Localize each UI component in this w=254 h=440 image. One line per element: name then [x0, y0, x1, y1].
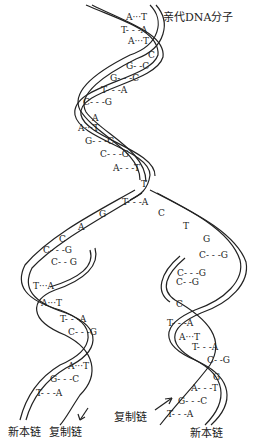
base-pair-label: A [78, 222, 85, 232]
base-pair-label: C- - -G [199, 250, 228, 260]
base-pair-label: T [141, 179, 147, 189]
base-pair-label: A···T [68, 361, 89, 371]
parent-dna-title: 亲代DNA分子 [163, 8, 233, 24]
base-pair-label: G- - -C [110, 73, 139, 83]
base-pair-label: G- - -C [85, 136, 114, 146]
base-pair-label: T [183, 221, 189, 231]
base-pair-label: G- - -C [178, 396, 207, 406]
base-pair-label: T- - -A [36, 388, 62, 398]
base-pair-label: C- - -G [68, 327, 97, 337]
base-pair-label: A···T [78, 123, 99, 133]
base-pair-label: G [99, 209, 106, 219]
base-pair-label: C- - G [51, 257, 77, 267]
base-pair-label: T···A [33, 281, 54, 291]
base-pair-label: A···T [128, 36, 149, 46]
base-pair-label: T- - -A [192, 342, 218, 352]
base-pair-label: T- - -A [167, 318, 193, 328]
base-pair-label: A···T [126, 12, 147, 22]
base-pair-label: C- - -G [83, 97, 112, 107]
base-pair-label: T- - -A [101, 85, 127, 95]
template-strand-label-right: 复制链 [114, 408, 147, 424]
base-pair-label: G- - -C [50, 374, 79, 384]
base-pair-label: C- - -G [100, 149, 129, 159]
base-pair-label: T- - -A [167, 409, 193, 419]
base-pair-label: A- - -T [191, 383, 218, 393]
base-pair-label: C- -G [176, 277, 199, 287]
base-pair-label: C- -G [207, 355, 230, 365]
new-strand-label-left: 新本链 [8, 423, 41, 439]
base-pair-label: T- - -A [60, 314, 86, 324]
base-pair-label: C- - -G [43, 245, 72, 255]
template-strand-label-left: 复制链 [49, 423, 82, 439]
base-pair-label: C [158, 208, 165, 218]
base-pair-label: C [176, 299, 183, 309]
base-pair-label: C [148, 50, 155, 60]
new-strand-label-right: 新本链 [190, 424, 223, 440]
base-pair-label: G [213, 372, 220, 382]
base-pair-label: A···T [41, 298, 62, 308]
base-pair-label: G [203, 234, 210, 244]
base-pair-label: T- - -A [122, 197, 148, 207]
base-pair-label: C [59, 234, 66, 244]
base-pair-label: A···T [179, 332, 200, 342]
base-pair-label: G- -C [126, 61, 149, 71]
base-pair-label: T- - -A [121, 25, 147, 35]
base-pair-label: A [92, 113, 99, 123]
base-pair-label: A- - -T [113, 163, 140, 173]
